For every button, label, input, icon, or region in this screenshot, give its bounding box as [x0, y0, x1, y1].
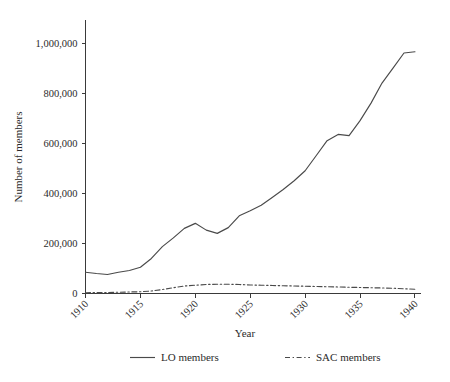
x-tick-label: 1920 [178, 298, 201, 321]
y-tick-label: 0 [72, 288, 77, 299]
legend-item-lo-members: LO members [130, 351, 219, 363]
x-axis-title: Year [235, 327, 256, 339]
y-tick-label: 800,000 [43, 88, 77, 99]
x-tick-label: 1925 [233, 298, 256, 321]
legend-label: SAC members [316, 351, 380, 363]
chart-legend: LO membersSAC members [130, 351, 380, 363]
y-tick-label: 1,000,000 [36, 38, 78, 49]
x-axis-tick-marks [86, 294, 415, 298]
x-tick-label: 1930 [287, 298, 310, 321]
x-axis-tick-labels: 1910191519201925193019351940 [68, 298, 420, 321]
y-axis-title: Number of members [12, 111, 24, 202]
y-axis-tick-marks [82, 43, 86, 294]
chart-figure: 0200,000400,000600,000800,0001,000,000 1… [0, 0, 450, 382]
y-axis-tick-labels: 0200,000400,000600,000800,0001,000,000 [36, 38, 78, 300]
y-tick-label: 400,000 [43, 188, 77, 199]
line-chart: 0200,000400,000600,000800,0001,000,000 1… [0, 0, 450, 382]
x-tick-label: 1935 [342, 298, 365, 321]
legend-item-sac-members: SAC members [285, 351, 380, 363]
x-tick-label: 1940 [397, 298, 420, 321]
x-tick-label: 1915 [123, 298, 146, 321]
series-line-sac-members [86, 284, 415, 293]
y-tick-label: 600,000 [43, 138, 77, 149]
x-tick-label: 1910 [68, 298, 91, 321]
legend-label: LO members [161, 351, 219, 363]
y-tick-label: 200,000 [43, 238, 77, 249]
series-line-lo-members [86, 52, 415, 275]
